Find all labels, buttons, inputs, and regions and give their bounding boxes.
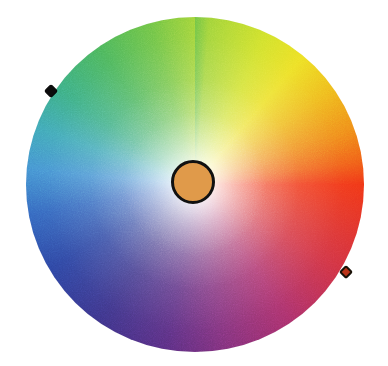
color-wheel-canvas <box>0 0 388 366</box>
selected-color-swatch[interactable] <box>171 160 215 204</box>
